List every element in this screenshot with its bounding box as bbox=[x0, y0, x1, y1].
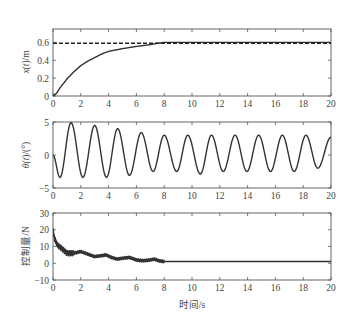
y-tick-label: 30 bbox=[40, 209, 50, 219]
chart-figure: 0246810121416182000.20.40.6 024681012141… bbox=[0, 0, 355, 326]
y-tick-label: −10 bbox=[34, 276, 49, 286]
y-tick-label: 20 bbox=[40, 225, 50, 235]
x-tick-label: 12 bbox=[215, 99, 225, 109]
x-tick-label: 4 bbox=[106, 99, 111, 109]
panel-angle: 02468101214161820−505 bbox=[39, 118, 336, 202]
y-tick-label: 0 bbox=[44, 151, 49, 161]
x-axis-label-time: 时间/s bbox=[179, 299, 206, 310]
data-curve bbox=[53, 229, 331, 263]
x-tick-label: 8 bbox=[162, 283, 167, 293]
x-tick-label: 12 bbox=[215, 191, 225, 201]
y-tick-label: 10 bbox=[40, 242, 50, 252]
x-tick-label: 8 bbox=[162, 99, 167, 109]
x-tick-label: 4 bbox=[106, 191, 111, 201]
x-tick-label: 6 bbox=[134, 99, 139, 109]
x-tick-label: 2 bbox=[78, 191, 83, 201]
y-tick-label: 0.4 bbox=[37, 56, 49, 66]
y-tick-label: −5 bbox=[39, 184, 49, 194]
y-tick-label: 0 bbox=[44, 259, 49, 269]
x-tick-label: 0 bbox=[51, 99, 56, 109]
x-tick-label: 14 bbox=[243, 99, 253, 109]
x-tick-label: 16 bbox=[271, 191, 281, 201]
x-tick-label: 20 bbox=[326, 99, 336, 109]
x-tick-label: 0 bbox=[51, 283, 56, 293]
x-tick-label: 18 bbox=[298, 283, 308, 293]
panel-control: 02468101214161820−100102030 bbox=[34, 209, 336, 294]
x-tick-label: 6 bbox=[134, 283, 139, 293]
x-tick-label: 6 bbox=[134, 191, 139, 201]
y-axis-label-position: x(t)/m bbox=[21, 50, 32, 75]
x-tick-label: 4 bbox=[106, 283, 111, 293]
y-axis-label-control: 控制量/N bbox=[20, 226, 31, 266]
panel-position: 0246810121416182000.20.40.6 bbox=[37, 29, 336, 109]
x-tick-label: 20 bbox=[326, 191, 336, 201]
y-tick-label: 5 bbox=[44, 118, 49, 128]
x-tick-label: 18 bbox=[298, 99, 308, 109]
x-tick-label: 14 bbox=[243, 283, 253, 293]
x-tick-label: 16 bbox=[271, 99, 281, 109]
x-tick-label: 10 bbox=[187, 283, 197, 293]
x-tick-label: 12 bbox=[215, 283, 225, 293]
x-tick-label: 20 bbox=[326, 283, 336, 293]
x-tick-label: 8 bbox=[162, 191, 167, 201]
x-tick-label: 16 bbox=[271, 283, 281, 293]
y-tick-label: 0.6 bbox=[37, 38, 49, 48]
data-curve bbox=[53, 123, 331, 178]
axes-frame bbox=[53, 29, 331, 96]
x-tick-label: 18 bbox=[298, 191, 308, 201]
y-tick-label: 0.2 bbox=[37, 74, 49, 84]
x-tick-label: 0 bbox=[51, 191, 56, 201]
x-tick-label: 10 bbox=[187, 191, 197, 201]
y-axis-label-angle: θ(t)/(°) bbox=[21, 142, 32, 168]
axes-frame bbox=[53, 213, 331, 280]
y-tick-label: 0 bbox=[44, 92, 49, 102]
x-tick-label: 10 bbox=[187, 99, 197, 109]
x-tick-label: 14 bbox=[243, 191, 253, 201]
x-tick-label: 2 bbox=[78, 99, 83, 109]
data-curve bbox=[53, 42, 330, 96]
x-tick-label: 2 bbox=[78, 283, 83, 293]
